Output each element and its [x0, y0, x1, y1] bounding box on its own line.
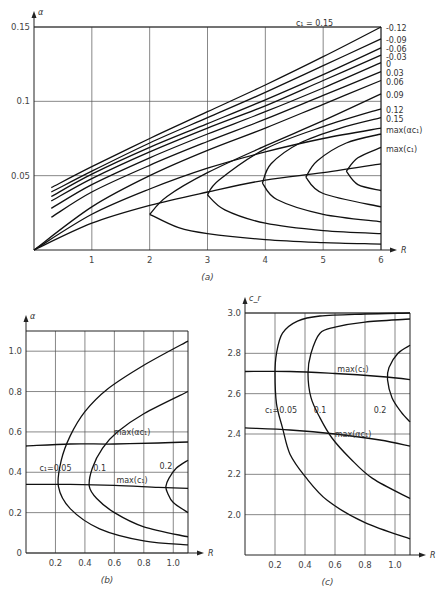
- curve-annotation: 0.12: [386, 106, 404, 115]
- panel-b-chart: 0.20.40.60.81.000.20.40.60.81.0Rαmax(αc₁…: [8, 312, 213, 585]
- y-tick-label: 0.15: [11, 22, 30, 32]
- y-tick-label: 1.0: [8, 346, 22, 356]
- y-axis-label: α: [38, 8, 44, 17]
- x-axis-label: R: [401, 246, 407, 255]
- x-tick-label: 1.0: [388, 560, 402, 570]
- curve-annotation: max(αc₁): [386, 126, 423, 135]
- y-tick-label: 0.1: [16, 96, 30, 106]
- x-tick-label: 5: [320, 255, 325, 265]
- panel-a-chart: 1234560.050.10.15Rαc₁ = 0.15-0.12-0.09-0…: [11, 8, 422, 282]
- curve-c1-0-15b-lower: [306, 177, 381, 207]
- x-tick-label: 0.4: [78, 558, 92, 568]
- curve-annotation: c₁=0.05: [39, 464, 71, 473]
- curve-annotation: 0.2: [374, 406, 387, 415]
- y-axis-label: c_r: [249, 294, 261, 303]
- x-axis-arrow-icon: [419, 553, 426, 558]
- y-tick-label: 2.0: [227, 510, 241, 520]
- curve-annotation: max(αc₁): [335, 430, 372, 439]
- curve-annotation: -0.09: [386, 36, 407, 45]
- x-axis-arrow-icon: [197, 551, 204, 556]
- y-axis-arrow-icon: [24, 315, 29, 322]
- curve-c1-0-03: [51, 72, 381, 218]
- panel-caption: (a): [201, 272, 214, 282]
- curve-annotation: 0: [386, 60, 391, 69]
- curve-c1-0: [51, 63, 381, 209]
- x-tick-label: 2: [147, 255, 152, 265]
- curve-annotation: 0.15: [386, 115, 404, 124]
- x-tick-label: 0.6: [328, 560, 342, 570]
- x-axis-label: R: [430, 551, 436, 560]
- x-tick-label: 0.4: [298, 560, 312, 570]
- panel-c-chart: 0.20.40.60.81.02.02.22.42.62.83.0Rc_rmax…: [227, 294, 435, 587]
- y-tick-label: 0.4: [8, 467, 22, 477]
- figure: 1234560.050.10.15Rαc₁ = 0.15-0.12-0.09-0…: [0, 0, 437, 595]
- x-tick-label: 0.6: [108, 558, 122, 568]
- curve-c1-0-15a-lower: [262, 183, 381, 222]
- curve-annotation: 0.1: [314, 406, 327, 415]
- x-tick-label: 1.0: [167, 558, 181, 568]
- curve-annotation: 0.06: [386, 78, 404, 87]
- curve-c1-0-15c-lower: [346, 171, 381, 190]
- curve-annotation: c₁=0.05: [265, 406, 297, 415]
- y-tick-label: 0.05: [11, 171, 30, 181]
- y-tick-label: 2.6: [227, 389, 241, 399]
- x-tick-label: 0.2: [268, 560, 282, 570]
- x-axis-arrow-icon: [390, 248, 397, 253]
- y-tick-label: 2.8: [227, 348, 241, 358]
- curve-annotation: 0.1: [93, 464, 106, 473]
- panel-caption: (b): [101, 575, 114, 585]
- curve-c1-0-2: [387, 345, 410, 422]
- y-tick-label: 2.2: [227, 469, 241, 479]
- y-tick-label: 0: [17, 548, 22, 558]
- y-tick-label: 0.2: [8, 508, 22, 518]
- y-axis-arrow-icon: [32, 11, 37, 18]
- x-tick-label: 0.8: [358, 560, 372, 570]
- x-tick-label: 4: [263, 255, 268, 265]
- curve-annotation: max(c₁): [116, 476, 147, 485]
- y-tick-label: 3.0: [227, 308, 241, 318]
- curve-c1-0-15b: [306, 134, 381, 177]
- curve-annotation: 0.2: [160, 462, 173, 471]
- y-axis-arrow-icon: [243, 297, 248, 304]
- curve-annotation: 0.09: [386, 91, 404, 100]
- curve-c1-0-05: [275, 313, 410, 539]
- curve-c1-0-03: [51, 55, 381, 201]
- panel-caption: (c): [322, 577, 334, 587]
- curve-max-c1-: [26, 484, 188, 488]
- curve-annotation: 0.03: [386, 69, 404, 78]
- y-tick-label: 0.6: [8, 427, 22, 437]
- x-tick-label: 3: [205, 255, 210, 265]
- x-tick-label: 6: [378, 255, 383, 265]
- curve-c1-0-12: [51, 27, 381, 188]
- y-tick-label: 2.4: [227, 429, 241, 439]
- x-tick-label: 1: [89, 255, 94, 265]
- y-tick-label: 0.8: [8, 387, 22, 397]
- curve-max-c1-: [245, 371, 410, 379]
- curve-annotation: max(αc₁): [114, 428, 151, 437]
- x-tick-label: 0.2: [49, 558, 63, 568]
- curve-annotation: -0.12: [386, 24, 407, 33]
- x-axis-label: R: [208, 549, 214, 558]
- curve-annotation: max(c₁): [337, 365, 368, 374]
- y-axis-label: α: [30, 312, 36, 321]
- curve-c1-0-12-lower: [208, 195, 382, 234]
- curve-annotation: max(c₁): [386, 145, 417, 154]
- curve-c1-0-15c: [346, 147, 381, 171]
- x-tick-label: 0.8: [137, 558, 151, 568]
- curve-annotation: c₁ = 0.15: [296, 19, 333, 28]
